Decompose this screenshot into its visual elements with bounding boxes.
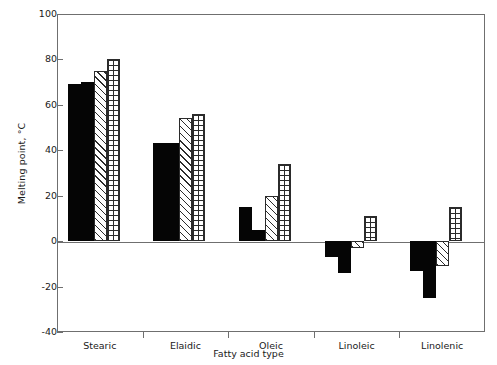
bar-elaidic-series-2	[166, 143, 179, 241]
bar-linoleic-series-4	[364, 216, 377, 241]
bar-oleic-series-1	[239, 207, 252, 241]
y-tick-label: 80	[23, 53, 57, 64]
bar-linolenic-series-1	[410, 241, 423, 271]
bar-elaidic-series-4	[192, 114, 205, 241]
y-tick-mark	[57, 14, 63, 15]
y-tick-label: 20	[23, 190, 57, 201]
x-tick-mark	[314, 332, 315, 338]
y-tick-label: 40	[23, 144, 57, 155]
x-axis-label: Fatty acid type	[0, 348, 497, 359]
x-tick-mark	[143, 332, 144, 338]
bar-oleic-series-3	[265, 196, 278, 241]
bar-linoleic-series-2	[338, 241, 351, 273]
bar-linoleic-series-1	[325, 241, 338, 257]
x-tick-mark	[399, 332, 400, 338]
x-tick-mark	[228, 332, 229, 338]
y-tick-label: 0	[23, 235, 57, 246]
bar-linolenic-series-4	[449, 207, 462, 241]
y-tick-mark	[57, 150, 63, 151]
bar-oleic-series-4	[278, 164, 291, 241]
y-tick-mark	[57, 196, 63, 197]
bar-elaidic-series-1	[153, 143, 166, 241]
bar-linoleic-series-3	[351, 241, 364, 248]
y-tick-label: 100	[23, 8, 57, 19]
y-tick-label: -20	[23, 281, 57, 292]
y-tick-mark	[57, 59, 63, 60]
bar-stearic-series-3	[94, 71, 107, 241]
plot-area	[57, 14, 485, 332]
y-tick-label: -40	[23, 326, 57, 337]
bar-stearic-series-4	[107, 59, 120, 241]
bar-stearic-series-1	[68, 84, 81, 241]
melting-point-bar-chart: Melting point, °C 100806040200-20-40 Ste…	[0, 0, 497, 365]
y-tick-mark	[57, 287, 63, 288]
y-tick-mark	[57, 332, 63, 333]
bar-linolenic-series-2	[423, 241, 436, 298]
y-tick-mark	[57, 105, 63, 106]
y-axis-label: Melting point, °C	[16, 104, 27, 224]
bar-oleic-series-2	[252, 230, 265, 241]
y-tick-mark	[57, 241, 63, 242]
bar-stearic-series-2	[81, 82, 94, 241]
bar-linolenic-series-3	[436, 241, 449, 266]
bar-elaidic-series-3	[179, 118, 192, 241]
y-tick-label: 60	[23, 99, 57, 110]
